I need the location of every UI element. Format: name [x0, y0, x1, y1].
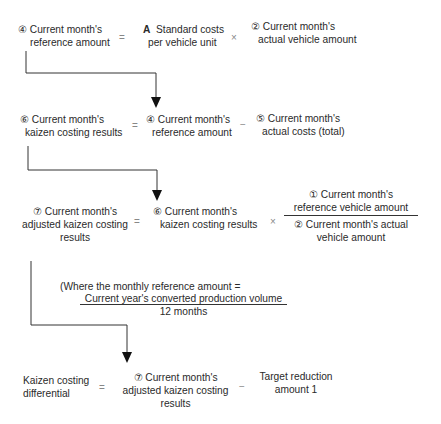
row3-denominator-line1: ② Current month's actual: [284, 218, 418, 231]
label-a-marker: A: [143, 24, 150, 35]
minus-sign: −: [239, 380, 245, 393]
row4-term1: ⑦ Current month's adjusted kaizen costin…: [115, 371, 236, 410]
row2-lhs-line1: ⑥ Current month's: [20, 113, 122, 126]
row3-term1: ⑥ Current month's kaizen costing results: [153, 205, 257, 231]
row4-lhs-line2: differential: [23, 387, 89, 400]
row1-term1: A Standard costs per vehicle unit: [143, 23, 224, 49]
equals-sign: =: [132, 119, 138, 132]
row4-term2: Target reduction amount 1: [256, 370, 336, 396]
row1-lhs-line1: ④ Current month's: [18, 23, 110, 36]
row3-numerator-line1: ① Current month's: [284, 188, 418, 201]
row2-term2-line2: actual costs (total): [256, 125, 345, 138]
fraction-bar: [284, 215, 418, 216]
row4-lhs: Kaizen costing differential: [23, 374, 89, 400]
row3-lhs-line1: ⑦ Current month's: [19, 205, 131, 218]
row3-lhs-line2: adjusted kaizen costing: [19, 218, 131, 231]
row4-term1-line3: results: [115, 397, 236, 410]
equals-sign: =: [119, 31, 125, 44]
row1-term1-line2: per vehicle unit: [143, 36, 224, 49]
row3-term1-line1: ⑥ Current month's: [153, 205, 257, 218]
row3-numerator-line2: reference vehicle amount: [284, 201, 418, 214]
row1-term2-line2: actual vehicle amount: [251, 33, 357, 46]
row2-term2: ⑤ Current month's actual costs (total): [256, 112, 345, 138]
note-denominator: 12 months: [80, 305, 287, 318]
row1-term2-line1: ② Current month's: [251, 20, 357, 33]
row4-term2-line2: amount 1: [256, 383, 336, 396]
row2-term2-line1: ⑤ Current month's: [256, 112, 345, 125]
row2-lhs-line2: kaizen costing results: [20, 126, 122, 139]
times-sign: ×: [231, 31, 237, 44]
row1-lhs: ④ Current month's reference amount: [18, 23, 110, 49]
times-sign: ×: [270, 215, 276, 228]
row2-term1-line2: reference amount: [146, 126, 232, 139]
row2-lhs: ⑥ Current month's kaizen costing results: [20, 113, 122, 139]
equals-sign: =: [134, 215, 140, 228]
row2-term1-line1: ④ Current month's: [146, 113, 232, 126]
row2-term1: ④ Current month's reference amount: [146, 113, 232, 139]
row4-lhs-line1: Kaizen costing: [23, 374, 89, 387]
equals-sign: =: [99, 381, 105, 394]
row3-fraction-denominator: ② Current month's actual vehicle amount: [284, 218, 418, 244]
row4-term1-line2: adjusted kaizen costing: [115, 384, 236, 397]
row3-lhs: ⑦ Current month's adjusted kaizen costin…: [19, 205, 131, 244]
row1-lhs-line2: reference amount: [18, 36, 110, 49]
row1-term1-line1: Standard costs: [156, 24, 224, 35]
row4-term1-line1: ⑦ Current month's: [115, 371, 236, 384]
row3-term1-line2: kaizen costing results: [153, 218, 257, 231]
row1-term2: ② Current month's actual vehicle amount: [251, 20, 357, 46]
row4-term2-line1: Target reduction: [256, 370, 336, 383]
minus-sign: −: [240, 118, 246, 131]
row3-fraction-numerator: ① Current month's reference vehicle amou…: [284, 188, 418, 214]
row3-denominator-line2: vehicle amount: [284, 231, 418, 244]
row3-lhs-line3: results: [19, 231, 131, 244]
